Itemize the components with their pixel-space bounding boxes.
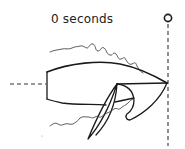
body-outline-bottom [47,99,106,105]
reference-pin-marker [164,14,171,21]
body-outline-top [47,62,167,83]
rear-lobe [117,83,167,120]
diagram-canvas: 0 seconds [0,0,185,149]
body-inner-line [117,83,167,84]
flap [88,84,117,139]
sketch-drawing [0,0,185,149]
speck [41,135,42,136]
wake-upper [50,44,143,73]
